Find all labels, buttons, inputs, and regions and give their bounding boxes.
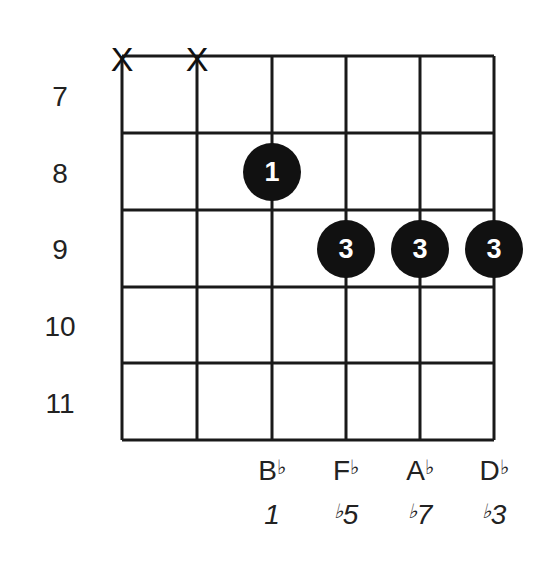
flat-icon: ♭ [425, 456, 434, 478]
flat-icon: ♭ [334, 500, 343, 522]
note-label: B♭ [242, 452, 302, 486]
flat-icon: ♭ [482, 500, 491, 522]
note-label: F♭ [316, 452, 376, 486]
fret-label: 8 [30, 160, 90, 188]
note-label: A♭ [390, 452, 450, 486]
fret-label: 10 [30, 313, 90, 341]
mute-x-icon: X [182, 42, 212, 76]
finger-dot: 3 [391, 220, 449, 278]
fret-label: 7 [30, 83, 90, 111]
flat-icon: ♭ [500, 456, 509, 478]
interval-label: ♭5 [316, 496, 376, 530]
chord-diagram: X X 7 8 9 10 11 1 3 3 3 B♭ F♭ A♭ D♭ 1 ♭5… [0, 0, 552, 568]
interval-label: ♭7 [390, 496, 450, 530]
note-label: D♭ [464, 452, 524, 486]
fret-label: 9 [30, 236, 90, 264]
interval-label: ♭3 [464, 496, 524, 530]
flat-icon: ♭ [408, 500, 417, 522]
flat-icon: ♭ [277, 456, 286, 478]
finger-dot: 1 [243, 143, 301, 201]
finger-dot: 3 [317, 220, 375, 278]
flat-icon: ♭ [350, 456, 359, 478]
finger-dot: 3 [465, 220, 523, 278]
interval-label: 1 [242, 496, 302, 530]
mute-x-icon: X [107, 42, 137, 76]
fret-label: 11 [30, 390, 90, 418]
